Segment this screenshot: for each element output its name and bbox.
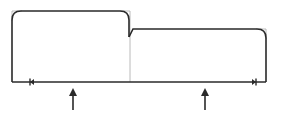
construction-lines [12,11,266,82]
corner-guide-left [12,11,22,21]
block-shapes [12,11,266,82]
arrow-up-icon [201,88,209,96]
right-block [129,29,266,82]
diagram-canvas [0,0,282,116]
left-block [12,11,129,82]
arrow-up-icon [69,88,77,96]
corner-guide-right [256,29,266,39]
up-arrows [69,88,209,110]
diagram-svg [0,0,282,116]
